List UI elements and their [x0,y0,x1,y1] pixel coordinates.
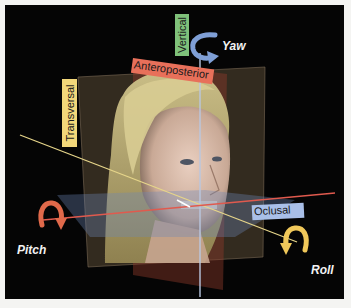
right-eye [212,157,222,162]
transversal-label: Transversal [62,79,77,147]
yaw-arrowhead [207,51,219,64]
pitch-arrowhead [55,218,67,230]
diagram-canvas: Vertical Anteroposterior Transversal Ocl… [5,5,344,299]
vertical-label: Vertical [175,14,189,56]
yaw-label: Yaw [222,39,246,53]
oclusal-label-text: Oclusal [254,203,291,217]
left-eye [180,159,194,165]
transversal-label-text: Transversal [64,84,75,141]
roll-label: Roll [311,263,334,277]
roll-arrowhead [280,243,292,255]
oclusal-label: Oclusal [252,203,305,221]
pitch-label: Pitch [17,243,46,257]
vertical-label-text: Vertical [177,17,188,53]
